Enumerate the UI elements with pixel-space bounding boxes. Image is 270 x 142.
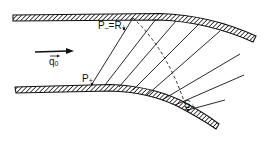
flow-arrow-icon — [35, 48, 74, 54]
characteristic-lines — [92, 18, 244, 110]
label-s-plus: S+ — [184, 99, 195, 110]
label-q0: q0 — [49, 56, 59, 67]
upper-wall — [13, 14, 256, 43]
label-p-minus-equals-r-plus: P–=R+ — [98, 20, 126, 31]
label-p-plus: P+ — [82, 73, 93, 84]
diagram-canvas: q0 P+ P–=R+ S+ — [0, 0, 270, 142]
